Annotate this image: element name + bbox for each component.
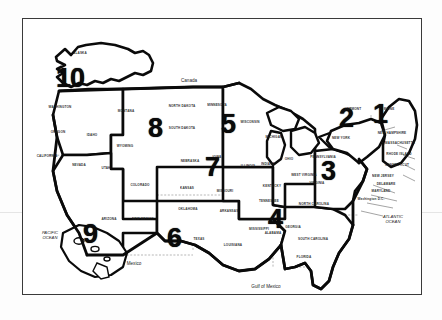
state-label: ILLINOIS <box>241 164 255 168</box>
state-label: FLORIDA <box>297 255 312 259</box>
geography-label: ATLANTICOCEAN <box>383 214 403 225</box>
state-label: VIRGINIA <box>310 181 325 185</box>
state-label: MONTANA <box>118 109 135 113</box>
region-number-1[interactable]: 1 <box>373 101 387 128</box>
state-label: UTAH <box>102 166 111 170</box>
state-label: OHIO <box>285 157 294 161</box>
state-label: NORTH DAKOTA <box>169 104 196 108</box>
region-number-10[interactable]: 10 <box>56 65 84 92</box>
state-label: LOUISIANA <box>224 243 242 247</box>
state-label: NEW HAMPSHIRE <box>378 131 407 135</box>
state-label: ARKANSAS <box>220 209 239 213</box>
state-label: WASHINGTON <box>49 105 72 109</box>
state-label: KANSAS <box>180 186 194 190</box>
region-number-6[interactable]: 6 <box>167 225 181 252</box>
state-label: TEXAS <box>193 237 204 241</box>
state-label: MISSOURI <box>217 189 234 193</box>
state-label: NORTH CAROLINA <box>299 202 329 206</box>
state-label: COLORADO <box>130 183 149 187</box>
state-label: CONNECTICUT <box>385 163 409 167</box>
state-label: MICHIGAN <box>266 135 283 139</box>
state-label: IOWA <box>213 155 222 159</box>
state-label: GEORGIA <box>285 225 301 229</box>
region-number-4[interactable]: 4 <box>268 206 282 233</box>
state-label: OREGON <box>51 130 66 134</box>
state-label: TENNESSEE <box>259 199 279 203</box>
state-label: NEW YORK <box>332 136 350 140</box>
state-label: SOUTH CAROLINA <box>298 237 328 241</box>
state-label: NEVADA <box>72 163 86 167</box>
geography-label: PACIFICOCEAN <box>42 230 58 241</box>
state-label: WYOMING <box>117 144 134 148</box>
state-label: ALASKA <box>73 51 87 55</box>
state-label: WEST VIRGINIA <box>291 173 317 177</box>
map-canvas: 1 2 3 4 5 6 7 8 9 10 ALASKAWASHINGTONORE… <box>0 0 442 320</box>
us-map-outline <box>23 19 422 295</box>
state-label: ARIZONA <box>101 217 116 221</box>
geography-label: Canada <box>181 78 197 83</box>
state-label: WISCONSIN <box>240 120 259 124</box>
map-frame: 1 2 3 4 5 6 7 8 9 10 ALASKAWASHINGTONORE… <box>22 18 422 295</box>
state-label: NEW MEXICO <box>132 217 154 221</box>
state-label: KENTUCKY <box>263 184 281 188</box>
state-label: INDIANA <box>261 162 275 166</box>
state-label: DELAWARE <box>377 182 396 186</box>
state-label: NEBRASKA <box>181 159 200 163</box>
state-label: IDAHO <box>87 133 98 137</box>
state-label: VERMONT <box>345 107 362 111</box>
state-label: ALABAMA <box>265 231 282 235</box>
state-label: MARYLAND <box>372 189 391 193</box>
state-label: PENNSYLVANIA <box>310 155 336 159</box>
state-label: OKLAHOMA <box>178 207 197 211</box>
geography-label: Mexico <box>127 261 142 266</box>
region-number-8[interactable]: 8 <box>148 115 162 142</box>
geography-label: Gulf of Mexico <box>251 284 280 289</box>
state-label: NEW JERSEY <box>372 174 394 178</box>
state-label: MASSACHUSETTS <box>385 141 415 145</box>
state-label: SOUTH DAKOTA <box>169 126 196 130</box>
region-number-5[interactable]: 5 <box>221 111 235 138</box>
state-label: CALIFORNIA <box>37 154 58 158</box>
state-label: MINNESOTA <box>207 103 227 107</box>
state-label: Washington D.C. <box>358 197 385 201</box>
state-label: MAINE <box>384 107 395 111</box>
state-label: RHODE ISLAND <box>386 152 411 156</box>
region-number-9[interactable]: 9 <box>83 221 97 248</box>
